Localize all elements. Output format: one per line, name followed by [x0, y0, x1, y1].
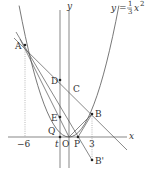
y-axis-label: y	[66, 1, 73, 11]
tick-label-neg-six: −6	[17, 139, 31, 149]
equation-frac-num: 1	[128, 0, 132, 8]
point-B	[91, 113, 94, 116]
point-A	[24, 44, 27, 47]
label-Q: Q	[48, 126, 55, 136]
x-axis-label: x	[129, 131, 134, 141]
line-AO	[20, 39, 69, 137]
line-AB	[14, 38, 127, 150]
label-B: B	[95, 109, 102, 119]
equation-frac-den: 3	[128, 8, 132, 16]
label-B-prime: B'	[95, 156, 104, 166]
curve-equation-label: y = 1 3 x 2	[110, 0, 144, 16]
equation-rhs: x	[134, 3, 139, 13]
tick-label-three: 3	[89, 139, 95, 149]
label-E: E	[51, 113, 58, 123]
parabola-diagram: A B B' C D E Q P O t −6 3 x y y = 1 3 x …	[0, 0, 149, 170]
point-Q	[59, 136, 62, 139]
label-A: A	[14, 41, 22, 51]
point-P	[77, 136, 80, 139]
point-B-prime	[91, 159, 94, 162]
label-C: C	[73, 84, 80, 94]
label-P: P	[74, 139, 80, 149]
point-D	[59, 79, 62, 82]
label-t: t	[55, 139, 59, 149]
equation-exponent: 2	[140, 0, 144, 8]
equation-lhs: y =	[110, 3, 127, 13]
label-origin: O	[62, 139, 69, 149]
point-E	[59, 116, 62, 119]
label-D: D	[51, 76, 58, 86]
